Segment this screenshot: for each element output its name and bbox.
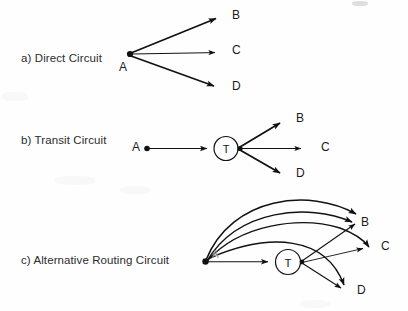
node-label-b-d: D [296,166,305,180]
node-label-b-a: A [132,140,140,154]
figure-canvas: T T a) Direct Circuit b) Transit Circuit… [0,0,408,311]
node-label-a-b: B [232,8,240,22]
edge-a-to-c [132,53,215,54]
node-label-c-d: D [357,283,366,297]
row-c-graph [202,200,369,288]
edge-a-to-d [131,56,214,86]
edge-c-t-to-b [302,224,355,261]
node-b-transit-label: T [223,143,230,155]
caption-transit-circuit: b) Transit Circuit [21,134,107,146]
node-label-c-b: B [361,215,369,229]
node-label-b-c: C [321,140,330,154]
node-label-a-c: C [232,43,241,57]
edge-a-to-b [131,19,216,54]
edge-b-t-to-d [240,150,280,173]
node-label-b-b: B [296,111,304,125]
node-label-a-d: D [232,79,241,93]
node-label-c-c: C [381,239,390,253]
node-label-c-a: A [212,249,219,260]
edge-b-t-to-b [240,123,280,147]
edge-c-t-to-d [302,263,341,288]
node-c-transit-label: T [284,257,291,269]
node-c-origin-dot [202,258,208,264]
row-a-graph [127,19,216,87]
node-label-a-a: A [119,60,127,74]
node-b-origin-dot [144,146,150,152]
edge-c-t-to-c [304,249,363,263]
caption-alternative-routing-circuit: c) Alternative Routing Circuit [21,254,169,266]
caption-direct-circuit: a) Direct Circuit [21,52,102,64]
